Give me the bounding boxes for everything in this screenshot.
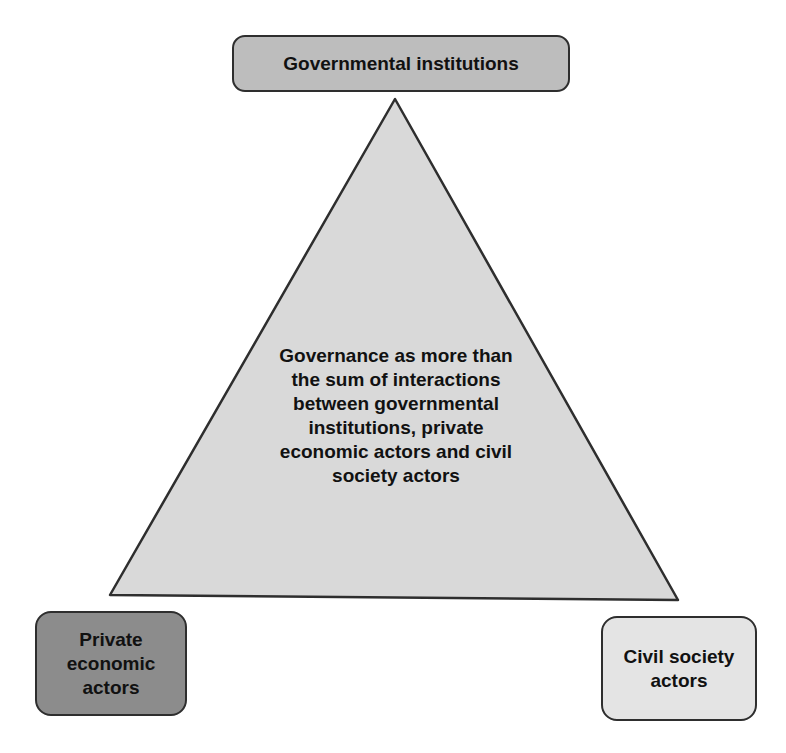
civil-society-actors-label: Civil society actors	[613, 645, 745, 693]
civil-society-actors-node: Civil society actors	[601, 616, 757, 721]
governmental-institutions-node: Governmental institutions	[232, 35, 570, 92]
private-economic-actors-node: Private economic actors	[35, 611, 187, 716]
governance-center-label: Governance as more than the sum of inter…	[268, 344, 524, 488]
governmental-institutions-label: Governmental institutions	[283, 53, 518, 75]
private-economic-actors-label: Private economic actors	[49, 628, 173, 700]
